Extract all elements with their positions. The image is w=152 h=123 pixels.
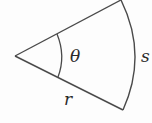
sector-diagram: θ s r xyxy=(0,0,152,123)
sector-figure: θ s r xyxy=(0,0,152,123)
arc-length-label: s xyxy=(141,46,150,66)
radius-label: r xyxy=(64,89,73,109)
upper-radius-line xyxy=(15,0,121,56)
angle-arc xyxy=(57,34,62,77)
theta-label: θ xyxy=(70,46,80,66)
outer-arc xyxy=(121,0,135,110)
